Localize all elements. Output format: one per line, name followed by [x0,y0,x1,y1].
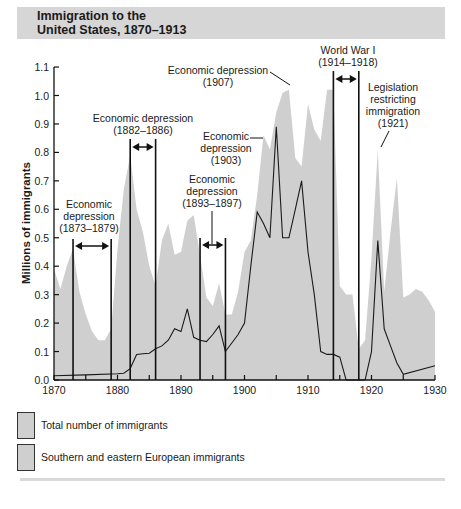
y-tick-label: 0.9 [34,118,49,130]
y-tick-label: 0.2 [34,317,49,329]
x-tick-label: 1870 [42,384,66,396]
annotation-depression-1882: Economic depression (1882–1886) [93,112,194,136]
bottom-rule [20,478,445,481]
annotation-legislation-1921: Legislation restricting immigration (192… [366,81,420,129]
annotation-depression-1907: Economic depression (1907) [168,64,269,88]
annotation-text: (1907) [203,76,233,88]
annotation-text: Legislation [368,81,418,93]
legend-label: Southern and eastern European immigrants [41,451,245,463]
annotation-text: restricting [370,93,416,105]
annotation-text: depression [63,210,115,222]
y-tick-label: 0.8 [34,146,49,158]
y-tick-label: 0.4 [34,260,49,272]
annotation-text: immigration [366,105,420,117]
legend-swatch-total [17,412,35,439]
annotation-text: depression [200,142,252,154]
legend-item-southern-eastern: Southern and eastern European immigrants [17,442,245,472]
legend-item-total: Total number of immigrants [17,410,245,440]
annotation-text: Economic [203,130,249,142]
legend: Total number of immigrants Southern and … [17,410,245,474]
annotation-text: Economic depression [93,112,194,124]
y-tick-label: 0.3 [34,289,49,301]
annotation-text: Economic [189,173,235,185]
y-tick-label: 0.7 [34,175,49,187]
annotation-text: Economic [66,198,112,210]
annotation-text: Economic depression [168,64,269,76]
x-tick-label: 1880 [106,384,130,396]
annotation-text: (1921) [378,117,408,129]
legend-label: Total number of immigrants [41,419,168,431]
annotation-text: (1893–1897) [182,197,242,209]
immigration-chart: 0.00.10.20.30.40.50.60.70.80.91.01.11870… [0,0,461,400]
legend-swatch-southern-eastern [17,444,35,471]
annotation-text: (1882–1886) [113,124,173,136]
y-tick-label: 1.1 [34,61,49,73]
x-tick-label: 1910 [296,384,320,396]
annotation-depression-1893: Economic depression (1893–1897) [182,173,242,209]
y-tick-label: 0.5 [34,232,49,244]
annotation-depression-1873: Economic depression (1873–1879) [59,198,119,234]
x-tick-label: 1920 [360,384,384,396]
y-tick-label: 0.6 [34,203,49,215]
annotation-text: (1903) [211,154,241,166]
y-tick-label: 1.0 [34,90,49,102]
y-axis-label: Millions of immigrants [20,162,32,284]
y-tick-label: 0.1 [34,346,49,358]
annotation-text: (1873–1879) [59,222,119,234]
annotation-text: depression [186,185,238,197]
annotation-world-war-1: World War I (1914–1918) [318,44,378,68]
x-tick-label: 1890 [169,384,193,396]
annotation-text: (1914–1918) [318,56,378,68]
x-tick-label: 1930 [423,384,447,396]
x-tick-label: 1900 [233,384,257,396]
annotation-depression-1903: Economic depression (1903) [200,130,252,166]
annotation-text: World War I [321,44,376,56]
